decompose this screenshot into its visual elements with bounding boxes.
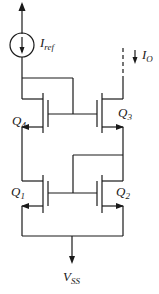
cascode-current-mirror-schematic: Iref IO	[0, 0, 159, 294]
vss-label: VSS	[63, 269, 80, 286]
output-current-indicator	[123, 48, 138, 78]
wiring	[22, 57, 123, 264]
q3-label: Q3	[118, 105, 132, 122]
q4-label: Q4	[12, 113, 26, 130]
io-label: IO	[141, 47, 153, 64]
iref-label: Iref	[39, 35, 56, 52]
top-supply-arrow	[19, 2, 26, 34]
current-source-iref	[10, 33, 34, 57]
q1-label: Q1	[11, 184, 25, 201]
q2-label: Q2	[116, 184, 130, 201]
